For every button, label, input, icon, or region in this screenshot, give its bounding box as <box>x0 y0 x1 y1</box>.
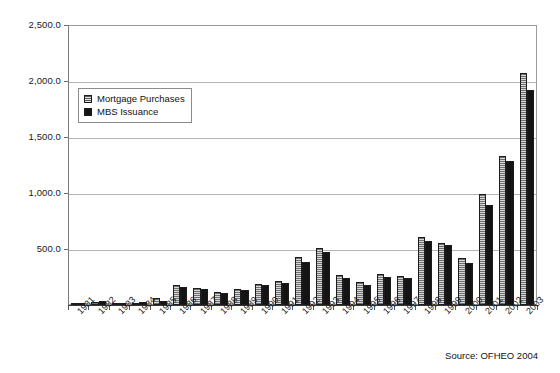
chart-legend: Mortgage Purchases MBS Issuance <box>78 88 192 123</box>
bar-1998-mortgage-purchases <box>418 237 425 305</box>
legend-label-mbs-issuance: MBS Issuance <box>97 107 158 117</box>
bar-series-layer <box>68 25 537 305</box>
bar-group <box>394 25 414 305</box>
bar-group <box>374 25 394 305</box>
bar-group <box>455 25 475 305</box>
bar-1999-mbs-issuance <box>445 245 452 305</box>
legend-swatch-icon-mortgage-purchases <box>84 95 92 103</box>
bar-1999-mortgage-purchases <box>438 243 445 305</box>
bar-group <box>517 25 537 305</box>
legend-label-mortgage-purchases: Mortgage Purchases <box>97 94 185 104</box>
bar-2003-mbs-issuance <box>527 90 534 305</box>
bar-group <box>170 25 190 305</box>
bar-group <box>496 25 516 305</box>
y-tick-label: 1,000.0 <box>0 188 61 198</box>
bar-group <box>129 25 149 305</box>
legend-item-mortgage-purchases: Mortgage Purchases <box>84 92 185 105</box>
bar-group <box>150 25 170 305</box>
bar-2002-mbs-issuance <box>506 161 513 305</box>
bar-group <box>88 25 108 305</box>
y-tick-label: 2,000.0 <box>0 76 61 86</box>
legend-item-mbs-issuance: MBS Issuance <box>84 105 185 118</box>
bar-group <box>272 25 292 305</box>
bar-group <box>333 25 353 305</box>
y-tick-label: 1,500.0 <box>0 132 61 142</box>
bar-group <box>415 25 435 305</box>
bar-group <box>292 25 312 305</box>
y-tick-label: 500.0 <box>0 244 61 254</box>
legend-swatch-icon-mbs-issuance <box>84 108 92 116</box>
bar-2001-mbs-issuance <box>486 205 493 305</box>
bar-chart: 2,500.02,000.01,500.01,000.0500.0 198119… <box>0 0 560 373</box>
x-tick-mark <box>68 306 69 310</box>
bar-group <box>252 25 272 305</box>
bar-1993-mbs-issuance <box>323 252 330 305</box>
bar-group <box>476 25 496 305</box>
bar-2002-mortgage-purchases <box>499 156 506 305</box>
bar-2003-mortgage-purchases <box>520 73 527 305</box>
bar-group <box>231 25 251 305</box>
bar-group <box>353 25 373 305</box>
bar-2001-mortgage-purchases <box>479 194 486 305</box>
bar-group <box>109 25 129 305</box>
bar-group <box>313 25 333 305</box>
bar-group <box>68 25 88 305</box>
bar-group <box>435 25 455 305</box>
bar-group <box>190 25 210 305</box>
source-note: Source: OFHEO 2004 <box>445 350 538 361</box>
y-tick-label: 2,500.0 <box>0 20 61 30</box>
bar-1998-mbs-issuance <box>425 241 432 305</box>
bar-group <box>211 25 231 305</box>
